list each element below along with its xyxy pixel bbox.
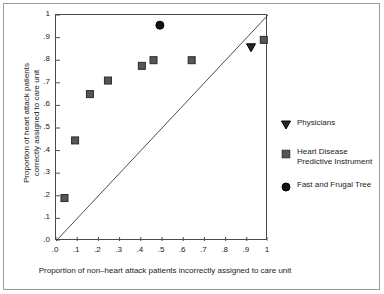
legend-label-line: Fast and Frugal Tree (297, 180, 380, 190)
data-point (260, 36, 267, 43)
chart-legend: PhysiciansHeart DiseasePredictive Instru… (280, 118, 380, 209)
legend-label-line: Physicians (297, 118, 380, 128)
legend-item-label: Fast and Frugal Tree (297, 180, 380, 190)
y-axis-title: Proportion of heart attack patients corr… (22, 28, 42, 218)
y-axis-title-line-2: correctly assigned to care unit (32, 28, 42, 218)
data-point (104, 77, 111, 84)
x-tick-label: .6 (172, 246, 192, 254)
data-point (156, 21, 164, 29)
y-axis-title-line-1: Proportion of heart attack patients (22, 28, 32, 218)
data-point (72, 137, 79, 144)
x-tick-label: .5 (151, 246, 171, 254)
data-point (138, 62, 145, 69)
legend-label-line: Predictive Instrument (297, 157, 380, 167)
data-point (86, 91, 93, 98)
series-circle (156, 21, 164, 29)
x-tick-label: .1 (66, 246, 86, 254)
circle-glyph (282, 183, 290, 191)
square-glyph (282, 150, 290, 158)
legend-label-line: Heart Disease (297, 147, 380, 157)
data-point (150, 57, 157, 64)
legend-item[interactable]: Physicians (280, 118, 380, 134)
plot-canvas (56, 15, 268, 241)
data-point (188, 57, 195, 64)
plot-area (55, 14, 267, 240)
x-axis-title: Proportion of non–heart attack patients … (0, 266, 330, 275)
x-tick-label: .4 (130, 246, 150, 254)
data-point (61, 195, 68, 202)
circle-icon (280, 181, 292, 193)
triangle-down-icon (280, 119, 292, 131)
series-triangle-down (247, 44, 256, 52)
x-tick-label: .0 (45, 246, 65, 254)
legend-item-label: Heart DiseasePredictive Instrument (297, 147, 380, 167)
legend-item-label: Physicians (297, 118, 380, 128)
legend-item[interactable]: Heart DiseasePredictive Instrument (280, 147, 380, 167)
y-tick-label: 1 (32, 10, 50, 18)
diagonal-chance-line (56, 15, 268, 241)
x-tick-label: 1 (257, 246, 277, 254)
x-tick-label: .3 (109, 246, 129, 254)
x-tick-label: .2 (87, 246, 107, 254)
triangle-down-glyph (282, 121, 291, 129)
data-point (247, 44, 256, 52)
legend-item[interactable]: Fast and Frugal Tree (280, 180, 380, 196)
x-tick-label: .8 (215, 246, 235, 254)
y-tick-label: .0 (32, 236, 50, 244)
roc-chart-figure: .0.1.2.3.4.5.6.7.8.91 Proportion of hear… (0, 0, 384, 294)
x-tick-label: .7 (193, 246, 213, 254)
series-square (61, 36, 267, 201)
square-icon (280, 148, 292, 160)
x-tick-label: .9 (236, 246, 256, 254)
x-axis-tick-labels: .0.1.2.3.4.5.6.7.8.91 (0, 246, 384, 258)
